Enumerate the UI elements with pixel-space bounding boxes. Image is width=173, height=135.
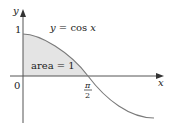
origin-label: 0 [14,80,20,91]
curve-label-eq: = cos [56,22,91,33]
y-axis-arrow-icon [20,9,26,17]
x-tick-denominator: 2 [85,91,90,100]
area-label: area = 1 [31,60,75,71]
x-axis-label: x [158,77,164,88]
y-tick-label: 1 [15,24,21,35]
cosine-area-figure: y 1 0 x y = cos x area = 1 π 2 [0,0,173,135]
curve-label: y = cos x [49,22,96,33]
y-axis-label: y [12,5,19,16]
x-tick-numerator: π [84,81,91,90]
curve-label-x: x [90,22,96,33]
